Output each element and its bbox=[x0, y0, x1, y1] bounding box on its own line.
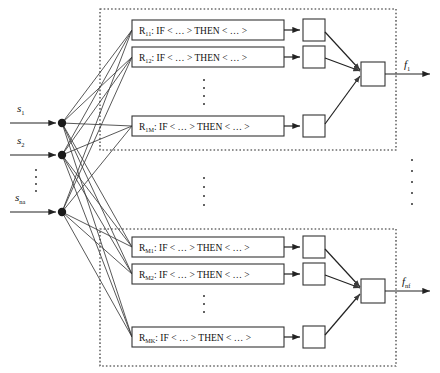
fuzzy-rule-system-diagram: s1 s2 sna R11: IF < … > THEN < … > R12: … bbox=[0, 0, 440, 373]
output-ellipsis bbox=[411, 159, 413, 205]
block-ellipsis bbox=[203, 177, 205, 206]
inference-box-11[interactable] bbox=[303, 19, 325, 41]
input-label-s2: s2 bbox=[17, 134, 25, 148]
input-label-s1: s1 bbox=[17, 102, 25, 116]
input-ellipsis bbox=[35, 169, 37, 192]
input-node-s2 bbox=[58, 151, 66, 159]
rule-label-11: R11: IF < … > THEN < … > bbox=[139, 26, 247, 37]
rule-label-MK: RMK: IF < … > THEN < … > bbox=[139, 333, 251, 344]
inference-box-12[interactable] bbox=[303, 46, 325, 68]
output-label-f1: f1 bbox=[404, 58, 410, 72]
inference-box-1M[interactable] bbox=[303, 115, 325, 137]
aggregation-box-nf[interactable] bbox=[361, 279, 385, 303]
inference-box-M1[interactable] bbox=[303, 236, 325, 258]
rule-label-12: R12: IF < … > THEN < … > bbox=[139, 53, 247, 64]
rule-ellipsis-block-1 bbox=[203, 79, 205, 105]
fanout-edges bbox=[62, 30, 132, 337]
aggregation-edges-block-nf bbox=[325, 249, 360, 335]
aggregation-box-1[interactable] bbox=[361, 62, 385, 86]
inference-box-MK[interactable] bbox=[303, 326, 325, 348]
aggregation-edges-block-1 bbox=[325, 32, 360, 124]
inference-box-M2[interactable] bbox=[303, 263, 325, 285]
rule-label-M2: RM2: IF < … > THEN < … > bbox=[139, 270, 250, 281]
input-label-sna: sna bbox=[15, 191, 26, 205]
input-node-s1 bbox=[58, 119, 66, 127]
rule-label-1M: R1M: IF < … > THEN < … > bbox=[139, 122, 250, 133]
input-node-sna bbox=[58, 208, 66, 216]
rule-label-M1: RM1: IF < … > THEN < … > bbox=[139, 243, 250, 254]
output-label-fnf: fnf bbox=[402, 275, 411, 289]
rule-ellipsis-block-nf bbox=[203, 295, 205, 313]
